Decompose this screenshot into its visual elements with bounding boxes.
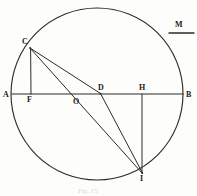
point-dot-d xyxy=(100,93,102,95)
point-label-b: B xyxy=(186,91,191,99)
point-dot-c xyxy=(29,47,31,49)
geometry-figure: A F O D H B C I M Fig. 15 xyxy=(0,0,197,196)
point-label-a: A xyxy=(3,91,9,99)
point-label-f: F xyxy=(27,96,32,104)
point-label-i: I xyxy=(140,175,143,183)
figure-caption: Fig. 15 xyxy=(78,188,98,195)
point-label-m: M xyxy=(175,21,183,29)
segment-ci xyxy=(30,48,142,173)
point-label-c: C xyxy=(22,38,28,46)
point-label-o: O xyxy=(73,98,79,106)
point-label-h: H xyxy=(139,84,145,92)
point-label-d: D xyxy=(98,84,104,92)
